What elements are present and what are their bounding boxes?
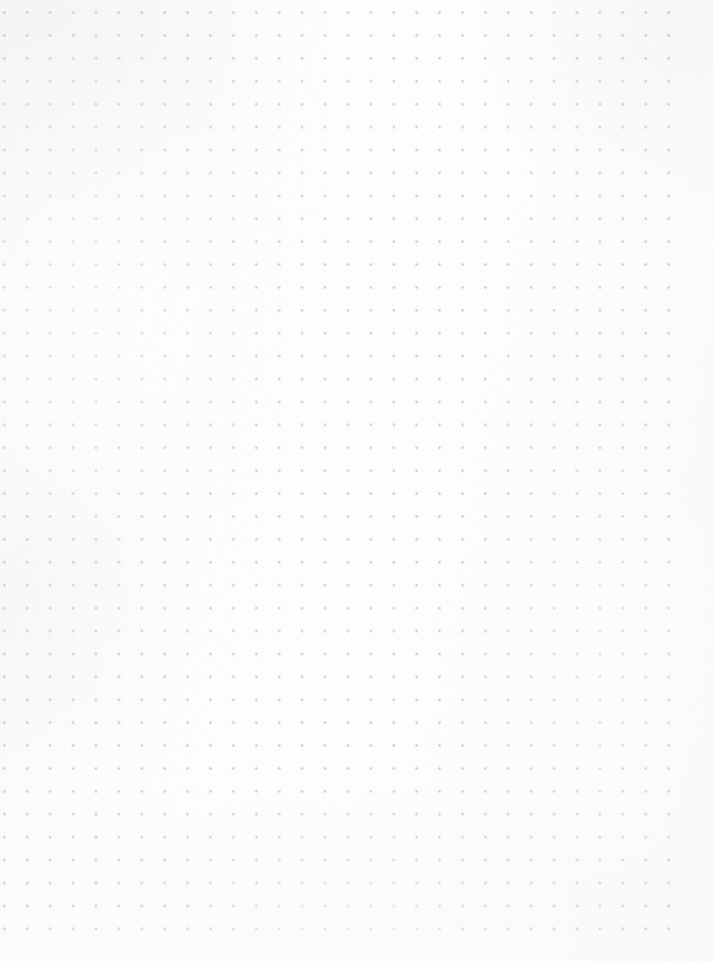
- dot-grid-page: [0, 0, 713, 961]
- dot-grid-top-partial-row: [0, 0, 300, 4]
- page-content-area: [16, 24, 687, 938]
- dot-grid-top-partial-row-dots: [0, 0, 300, 4]
